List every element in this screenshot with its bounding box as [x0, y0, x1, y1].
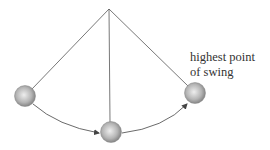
label-line-2: of swing: [190, 65, 255, 80]
pendulum-strings: [32, 9, 188, 122]
string-left: [32, 9, 109, 89]
bob-right: [185, 83, 206, 104]
arrow-left-to-bottom: [33, 104, 99, 133]
label-line-1: highest point: [190, 50, 255, 65]
string-center: [109, 9, 110, 122]
bob-left: [15, 86, 36, 107]
arrow-bottom-to-right: [122, 104, 187, 133]
pendulum-diagram: highest point of swing: [0, 0, 270, 150]
highest-point-label: highest point of swing: [190, 50, 255, 80]
bob-bottom: [101, 122, 122, 143]
string-right: [109, 9, 188, 86]
